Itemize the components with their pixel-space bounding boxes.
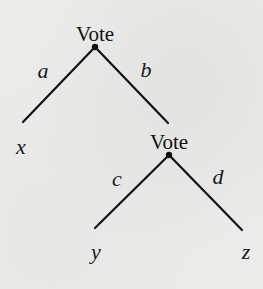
leaf-z: z (242, 241, 251, 263)
edge-label-b: b (141, 59, 152, 81)
edge-label-d: d (213, 166, 224, 188)
leaf-x: x (16, 136, 26, 158)
second-node-label: Vote (150, 132, 188, 153)
tree-edges (0, 0, 263, 289)
root-node-label: Vote (76, 24, 114, 45)
edge-d (169, 155, 242, 230)
edge-label-a: a (38, 60, 49, 82)
edge-b (95, 47, 168, 123)
edge-c (95, 155, 169, 228)
edge-label-c: c (112, 168, 122, 190)
leaf-y: y (91, 241, 101, 263)
edge-a (23, 47, 95, 122)
